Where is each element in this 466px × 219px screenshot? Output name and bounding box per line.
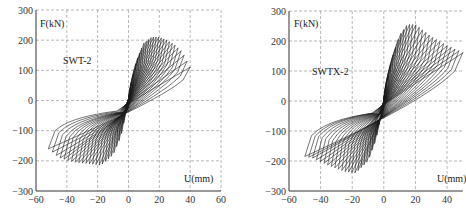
x-axis-label: U(mm) <box>184 173 213 185</box>
y-tick-label: 100 <box>271 66 286 77</box>
y-axis-label: F(kN) <box>40 18 64 30</box>
y-tick-label: 0 <box>28 95 33 106</box>
specimen-label: SWT-2 <box>63 55 92 66</box>
hysteresis-figure: 3002001000−100−200−300−60−40−200204060F(… <box>0 0 466 219</box>
x-tick-label: 40 <box>442 194 452 205</box>
x-tick-label: 0 <box>126 194 131 205</box>
y-tick-label: 200 <box>271 36 286 47</box>
x-tick-label: −40 <box>313 194 329 205</box>
x-tick-label: −20 <box>90 194 106 205</box>
y-axis-label: F(kN) <box>294 18 318 30</box>
y-tick-label: 300 <box>18 5 33 16</box>
x-tick-label: 40 <box>185 194 195 205</box>
chart-swt-2: 3002001000−100−200−300−60−40−200204060F(… <box>12 5 226 206</box>
y-tick-label: −200 <box>265 156 286 167</box>
y-tick-label: 200 <box>18 35 33 46</box>
x-tick-label: 0 <box>381 194 386 205</box>
x-tick-label: 20 <box>154 194 164 205</box>
y-tick-label: −100 <box>12 125 33 136</box>
y-tick-label: 100 <box>18 65 33 76</box>
y-tick-label: −200 <box>12 155 33 166</box>
hysteresis-loop <box>82 39 164 163</box>
x-axis-label: U(mm) <box>437 173 466 185</box>
x-tick-label: 60 <box>216 194 226 205</box>
y-tick-label: 300 <box>271 6 286 17</box>
x-tick-label: 20 <box>410 194 420 205</box>
x-tick-label: −60 <box>28 194 44 205</box>
x-tick-label: −40 <box>59 194 75 205</box>
chart-swtx-2: 3002001000−100−200−300−60−40−2002040F(kN… <box>265 6 466 206</box>
y-tick-label: −100 <box>265 126 286 137</box>
specimen-label: SWTX-2 <box>312 66 349 77</box>
x-tick-label: −20 <box>344 194 360 205</box>
y-tick-label: 0 <box>281 96 286 107</box>
x-tick-label: −60 <box>281 194 297 205</box>
